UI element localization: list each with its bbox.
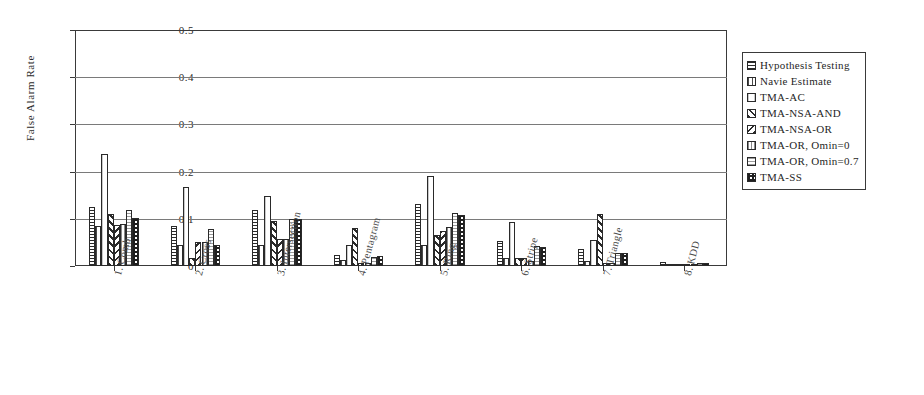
bar <box>621 253 627 266</box>
legend-swatch-icon <box>747 93 756 102</box>
legend-swatch-icon <box>747 157 756 166</box>
bar <box>377 256 383 266</box>
legend-swatch-icon <box>747 109 756 118</box>
bar-chart-figure: False Alarm Rate 00.10.20.30.40.5 1. Com… <box>0 0 924 395</box>
legend-item[interactable]: TMA-NSA-OR <box>747 121 859 137</box>
legend-swatch-icon <box>747 125 756 134</box>
bar <box>183 187 189 266</box>
legend-item[interactable]: TMA-SS <box>747 169 859 185</box>
legend-item[interactable]: Hypothesis Testing <box>747 57 859 73</box>
legend-item[interactable]: TMA-OR, Omin=0 <box>747 137 859 153</box>
legend-item-label: TMA-OR, Omin=0.7 <box>760 155 859 167</box>
legend-swatch-icon <box>747 77 756 86</box>
bar <box>214 245 220 266</box>
legend-item-label: TMA-AC <box>760 91 805 103</box>
bar <box>540 247 546 266</box>
bar <box>703 263 709 266</box>
legend-item-label: TMA-OR, Omin=0 <box>760 139 850 151</box>
bar <box>597 214 603 266</box>
plot-area <box>75 30 727 266</box>
legend-item-label: TMA-NSA-OR <box>760 123 832 135</box>
y-tick-mark <box>70 266 75 267</box>
legend-item[interactable]: Navie Estimate <box>747 73 859 89</box>
y-axis-title: False Alarm Rate <box>24 23 36 173</box>
legend-item[interactable]: TMA-NSA-AND <box>747 105 859 121</box>
bar <box>132 218 138 266</box>
legend-item-label: TMA-NSA-AND <box>760 107 841 119</box>
legend-item-label: Hypothesis Testing <box>760 59 850 71</box>
legend-item-label: Navie Estimate <box>760 75 832 87</box>
bars-layer <box>75 30 727 266</box>
legend-swatch-icon <box>747 61 756 70</box>
bar <box>458 215 464 266</box>
bar <box>352 228 358 266</box>
legend-item[interactable]: TMA-OR, Omin=0.7 <box>747 153 859 169</box>
legend-item-label: TMA-SS <box>760 171 802 183</box>
legend-swatch-icon <box>747 173 756 182</box>
legend-swatch-icon <box>747 141 756 150</box>
legend: Hypothesis TestingNavie EstimateTMA-ACTM… <box>742 52 866 190</box>
legend-item[interactable]: TMA-AC <box>747 89 859 105</box>
